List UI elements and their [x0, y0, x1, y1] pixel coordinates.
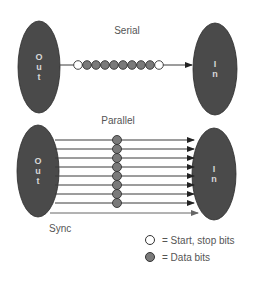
serial-bits	[74, 61, 164, 70]
serial-title: Serial	[114, 25, 140, 36]
serial-in-node: In	[193, 23, 237, 115]
data-bit	[113, 163, 122, 172]
start-stop-bit-icon	[146, 236, 155, 245]
parallel-in-node: In	[192, 128, 236, 220]
data-bit	[113, 154, 122, 163]
legend-item-data: = Data bits	[146, 252, 211, 263]
data-bit	[137, 61, 146, 70]
serial-vs-parallel-diagram: Serial Out In Parallel Out In Sync	[0, 0, 255, 281]
serial-section: Serial Out In	[18, 21, 237, 115]
node-label-char: I	[213, 164, 216, 174]
data-bit	[83, 61, 92, 70]
sync-label: Sync	[49, 223, 71, 234]
legend-item-start-stop: = Start, stop bits	[146, 235, 235, 246]
node-label-char: I	[214, 59, 217, 69]
parallel-data-lines	[55, 140, 194, 203]
node-label-char: u	[35, 166, 41, 176]
data-bit	[113, 181, 122, 190]
data-bit	[113, 145, 122, 154]
data-bit	[146, 61, 155, 70]
data-bit	[119, 61, 128, 70]
parallel-bits	[113, 136, 122, 208]
parallel-section: Parallel Out In Sync	[17, 115, 236, 234]
data-bit	[113, 199, 122, 208]
serial-out-node: Out	[18, 21, 60, 113]
data-bit	[101, 61, 110, 70]
start-stop-bit	[74, 61, 83, 70]
legend-start-stop-text: = Start, stop bits	[162, 235, 235, 246]
parallel-title: Parallel	[101, 115, 134, 126]
data-bit	[110, 61, 119, 70]
data-bit	[128, 61, 137, 70]
start-stop-bit	[155, 61, 164, 70]
node-label-char: O	[35, 52, 42, 62]
data-bit-icon	[146, 253, 155, 262]
node-label-char: n	[211, 174, 217, 184]
node-label-char: t	[38, 72, 41, 82]
data-bit	[113, 172, 122, 181]
node-label-char: n	[212, 69, 218, 79]
legend-data-text: = Data bits	[162, 252, 210, 263]
node-label-char: O	[34, 156, 41, 166]
data-bit	[92, 61, 101, 70]
data-bit	[113, 136, 122, 145]
data-bit	[113, 190, 122, 199]
parallel-out-node: Out	[17, 125, 59, 217]
node-label-char: u	[36, 62, 42, 72]
legend: = Start, stop bits = Data bits	[146, 235, 235, 263]
node-label-char: t	[37, 176, 40, 186]
